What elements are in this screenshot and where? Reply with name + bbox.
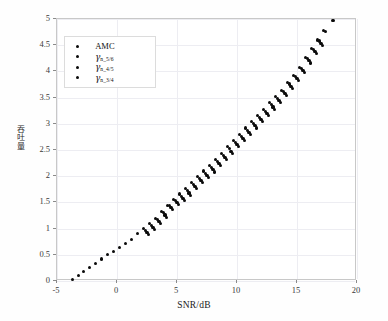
- y-axis-label: 吞吐量: [14, 126, 28, 151]
- legend-label: γn_3/4: [95, 73, 113, 83]
- gridline-vertical: [57, 19, 58, 279]
- gridline-horizontal: [57, 202, 355, 203]
- y-tick-label: 1: [24, 223, 50, 233]
- data-point: [315, 52, 318, 55]
- data-point: [100, 257, 103, 260]
- data-point: [77, 274, 80, 277]
- legend-item[interactable]: γn_4/5: [69, 62, 151, 73]
- data-point: [291, 87, 294, 90]
- data-point: [88, 266, 91, 269]
- y-tick-mark: [53, 123, 56, 124]
- data-point: [321, 44, 324, 47]
- data-point: [147, 233, 150, 236]
- y-tick-mark: [53, 280, 56, 281]
- y-tick-label: 4.5: [24, 39, 50, 49]
- data-point: [324, 30, 327, 33]
- data-point: [124, 242, 127, 245]
- x-tick-mark: [116, 280, 117, 283]
- y-tick-mark: [53, 228, 56, 229]
- data-point: [261, 120, 264, 123]
- data-point: [237, 145, 240, 148]
- data-point: [189, 194, 192, 197]
- y-tick-label: 2: [24, 170, 50, 180]
- gridline-horizontal: [57, 98, 355, 99]
- data-point: [273, 108, 276, 111]
- legend-label: γn_5/6: [95, 52, 113, 62]
- data-point: [94, 262, 97, 265]
- y-tick-mark: [53, 97, 56, 98]
- x-tick-label: 20: [341, 285, 371, 295]
- x-tick-label: 10: [221, 285, 251, 295]
- y-tick-label: 3.5: [24, 92, 50, 102]
- legend: AMCγn_5/6γn_4/5γn_3/4: [64, 36, 156, 88]
- data-point: [136, 232, 139, 235]
- data-point: [231, 152, 234, 155]
- data-point: [297, 79, 300, 82]
- y-tick-mark: [53, 70, 56, 71]
- data-point: [130, 238, 133, 241]
- gridline-vertical: [177, 19, 178, 279]
- data-point: [225, 158, 228, 161]
- data-point: [303, 71, 306, 74]
- chart-figure: -50510152000.511.522.533.544.55 SNR/dB 吞…: [0, 0, 388, 321]
- legend-label: γn_4/5: [95, 62, 113, 72]
- data-point: [213, 170, 216, 173]
- data-point: [331, 19, 334, 22]
- data-point: [207, 176, 210, 179]
- y-tick-mark: [53, 149, 56, 150]
- data-point: [106, 253, 109, 256]
- x-tick-mark: [56, 280, 57, 283]
- y-tick-label: 5: [24, 13, 50, 23]
- data-point: [159, 222, 162, 225]
- data-point: [195, 187, 198, 190]
- data-point: [82, 270, 85, 273]
- data-point: [153, 228, 156, 231]
- gridline-horizontal: [57, 124, 355, 125]
- data-point: [255, 126, 258, 129]
- x-tick-mark: [296, 280, 297, 283]
- x-tick-mark: [236, 280, 237, 283]
- y-tick-mark: [53, 18, 56, 19]
- x-tick-label: 0: [101, 285, 131, 295]
- gridline-vertical: [357, 19, 358, 279]
- gridline-horizontal: [57, 150, 355, 151]
- gridline-horizontal: [57, 281, 355, 282]
- y-tick-mark: [53, 254, 56, 255]
- data-point: [267, 114, 270, 117]
- data-point: [201, 181, 204, 184]
- x-tick-label: -5: [41, 285, 71, 295]
- legend-marker-icon: [76, 45, 79, 48]
- data-point: [243, 139, 246, 142]
- gridline-horizontal: [57, 229, 355, 230]
- legend-item[interactable]: γn_5/6: [69, 52, 151, 63]
- y-tick-mark: [53, 44, 56, 45]
- x-tick-label: 15: [281, 285, 311, 295]
- gridline-horizontal: [57, 255, 355, 256]
- data-point: [165, 216, 168, 219]
- data-point: [285, 94, 288, 97]
- x-tick-label: 5: [161, 285, 191, 295]
- y-tick-mark: [53, 201, 56, 202]
- x-tick-mark: [176, 280, 177, 283]
- data-point: [219, 164, 222, 167]
- data-point: [171, 208, 174, 211]
- y-tick-mark: [53, 175, 56, 176]
- data-point: [309, 61, 312, 64]
- data-point: [279, 101, 282, 104]
- data-point: [249, 133, 252, 136]
- y-tick-label: 0.5: [24, 249, 50, 259]
- legend-marker-icon: [76, 76, 79, 79]
- data-point: [177, 203, 180, 206]
- data-point: [118, 246, 121, 249]
- x-axis-label: SNR/dB: [0, 300, 388, 310]
- gridline-vertical: [237, 19, 238, 279]
- y-tick-label: 4: [24, 65, 50, 75]
- gridline-vertical: [297, 19, 298, 279]
- legend-item[interactable]: γn_3/4: [69, 73, 151, 84]
- legend-item[interactable]: AMC: [69, 41, 151, 52]
- y-tick-label: 1.5: [24, 196, 50, 206]
- x-tick-mark: [356, 280, 357, 283]
- gridline-horizontal: [57, 19, 355, 20]
- legend-label: AMC: [95, 41, 114, 51]
- data-point: [183, 199, 186, 202]
